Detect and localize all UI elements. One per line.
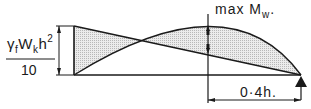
support-icon (295, 76, 307, 87)
max-moment-label: max Mw. (215, 1, 275, 20)
dimension-label: 0·4h. (240, 84, 277, 100)
fraction-denominator: 10 (21, 62, 37, 78)
fraction-numerator: γfWkh2 (7, 33, 53, 55)
